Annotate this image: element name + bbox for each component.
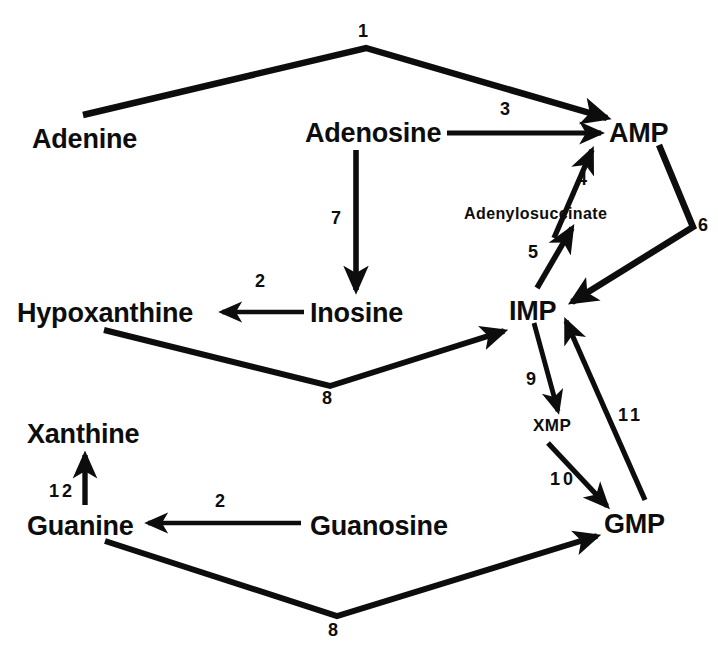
edge-label-step-2-inosine: 2 [255,272,265,290]
pathway-edges-layer [0,0,718,660]
node-adenosine[interactable]: Adenosine [305,120,441,147]
node-adenine[interactable]: Adenine [32,126,137,153]
node-amp[interactable]: AMP [609,120,668,147]
edge-6-path [572,145,693,302]
node-guanine[interactable]: Guanine [27,513,134,540]
edge-label-step-7: 7 [331,209,341,227]
edge-9-path [534,323,558,411]
node-hypoxanthine[interactable]: Hypoxanthine [17,300,193,327]
edge-8-lower-path [105,536,597,616]
edge-label-step-10: 10 [550,470,576,488]
node-xmp[interactable]: XMP [533,417,571,434]
node-adenylosuccinate[interactable]: Adenylosuccinate [464,206,607,222]
edge-label-step-3: 3 [500,100,510,118]
node-xanthine[interactable]: Xanthine [27,421,139,448]
edge-label-step-8-upper: 8 [322,389,332,407]
node-gmp[interactable]: GMP [604,511,665,538]
node-imp[interactable]: IMP [509,298,556,325]
edge-label-step-6: 6 [698,216,708,234]
edge-4-path [554,150,592,238]
edge-label-step-2-guanosine: 2 [215,492,225,510]
edge-8-upper-path [104,330,504,386]
edge-label-step-11: 11 [618,406,643,424]
node-guanosine[interactable]: Guanosine [310,513,448,540]
edge-label-step-9: 9 [526,370,536,388]
node-inosine[interactable]: Inosine [310,300,403,327]
edge-1-path [83,48,607,118]
purine-pathway-diagram: Adenine Adenosine AMP Adenylosuccinate H… [0,0,718,660]
edge-label-step-1: 1 [358,22,368,40]
edge-label-step-5: 5 [528,243,538,261]
edge-label-step-8-lower: 8 [328,621,338,639]
edge-label-step-4: 4 [577,170,587,188]
edge-label-step-12: 12 [49,482,75,500]
